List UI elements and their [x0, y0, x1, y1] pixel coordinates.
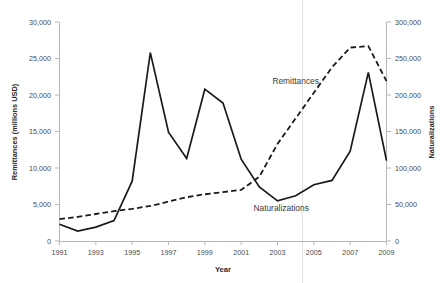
x-tick-label: 1997 — [161, 248, 177, 257]
right-tick-label: 200,000 — [395, 91, 421, 100]
x-axis-title: Year — [215, 265, 231, 274]
x-tick-label: 1995 — [124, 248, 140, 257]
series-label-naturalizations: Naturalizations — [253, 203, 308, 213]
x-tick-label: 1993 — [88, 248, 104, 257]
right-tick-label: 100,000 — [395, 164, 421, 173]
chart-container: 05,00010,00015,00020,00025,00030,000 Rem… — [0, 0, 443, 283]
x-tick-label: 2007 — [342, 248, 358, 257]
left-tick-label: 30,000 — [29, 18, 51, 27]
left-tick-label: 10,000 — [29, 164, 51, 173]
right-tick-label: 300,000 — [395, 18, 421, 27]
left-tick-label: 5,000 — [33, 200, 51, 209]
right-tick-label: 50,000 — [395, 200, 417, 209]
right-axis-title: Naturalizations — [427, 106, 436, 159]
left-tick-label: 20,000 — [29, 91, 51, 100]
dual-axis-line-chart: 05,00010,00015,00020,00025,00030,000 Rem… — [0, 0, 443, 283]
left-tick-label: 0 — [47, 237, 51, 246]
x-tick-label: 2009 — [379, 248, 395, 257]
left-tick-label: 25,000 — [29, 54, 51, 63]
right-tick-label: 250,000 — [395, 54, 421, 63]
chart-background — [0, 0, 443, 283]
left-tick-label: 15,000 — [29, 127, 51, 136]
x-tick-label: 2005 — [306, 248, 322, 257]
x-tick-label: 2003 — [270, 248, 286, 257]
series-label-remittances: Remittances — [272, 76, 319, 86]
left-axis-title: Remittances (millions USD) — [10, 83, 19, 180]
right-tick-label: 0 — [395, 237, 399, 246]
x-tick-label: 1999 — [197, 248, 213, 257]
right-tick-label: 150,000 — [395, 127, 421, 136]
x-tick-label: 1991 — [52, 248, 68, 257]
x-tick-label: 2001 — [233, 248, 249, 257]
